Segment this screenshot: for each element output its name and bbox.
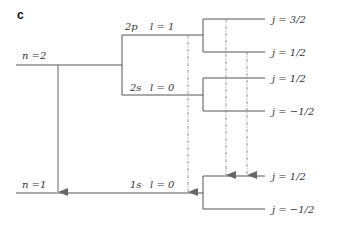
label-j-2p-lower: j = 1/2 — [270, 47, 306, 58]
transition-arrows — [58, 19, 247, 192]
split-n2: 2p l = 1 2s l = 0 — [122, 21, 203, 95]
label-1s: 1s — [130, 179, 142, 190]
level-n2: n =2 — [16, 50, 122, 65]
label-2p: 2p — [124, 21, 138, 32]
label-2s-l: l = 0 — [150, 82, 175, 93]
label-1s-l: l = 0 — [150, 179, 175, 190]
panel-label: c — [17, 8, 24, 22]
label-2p-l: l = 1 — [150, 21, 174, 32]
energy-level-diagram: c n =2 2p l = 1 2s l = 0 j = 3/2 j = 1/2… — [0, 0, 338, 225]
label-n1: n =1 — [22, 179, 46, 190]
label-j-2s-lower: j = −1/2 — [270, 106, 314, 117]
label-j-2s-upper: j = 1/2 — [270, 73, 306, 84]
label-j-1s-lower: j = −1/2 — [270, 204, 314, 215]
split-2p: j = 3/2 j = 1/2 — [203, 14, 306, 58]
label-2s: 2s — [129, 82, 142, 93]
label-j-2p-upper: j = 3/2 — [270, 14, 306, 25]
label-j-1s-upper: j = 1/2 — [270, 171, 306, 182]
level-n1: n =1 1s l = 0 — [16, 179, 203, 193]
split-1s: j = 1/2 j = −1/2 — [203, 171, 314, 215]
split-2s: j = 1/2 j = −1/2 — [203, 73, 314, 117]
label-n2: n =2 — [22, 50, 46, 61]
